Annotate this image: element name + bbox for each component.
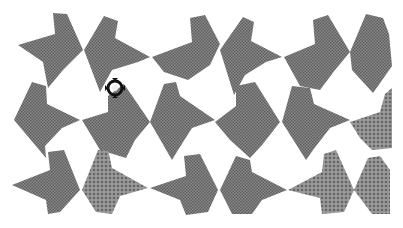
tile-t12 (350, 88, 392, 150)
tile-t18 (354, 156, 390, 214)
tile-t14 (82, 150, 148, 214)
tile-t11 (282, 86, 350, 160)
tile-t5 (284, 15, 350, 90)
tile-group (12, 13, 392, 215)
tile-t1 (18, 13, 83, 88)
tile-t3 (152, 15, 220, 80)
tessellation-pattern (0, 0, 403, 228)
tile-t13 (12, 150, 80, 214)
tile-t17 (288, 150, 354, 214)
tile-t15 (150, 154, 218, 215)
tile-t6 (350, 14, 392, 93)
tile-t9 (150, 82, 215, 160)
tile-t10 (215, 82, 280, 158)
move-cursor-icon (104, 78, 126, 98)
tile-t16 (220, 156, 287, 214)
tile-t7 (14, 82, 80, 158)
